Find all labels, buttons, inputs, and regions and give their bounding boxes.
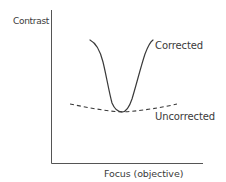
y-axis-label: Contrast [13, 17, 49, 26]
corrected-curve [90, 40, 153, 112]
plot-area [0, 0, 226, 182]
uncorrected-series-label: Uncorrected [155, 112, 215, 122]
corrected-series-label: Corrected [155, 41, 203, 51]
focus-contrast-figure: Contrast Focus (objective) Corrected Unc… [0, 0, 226, 182]
x-axis-label: Focus (objective) [104, 169, 183, 179]
